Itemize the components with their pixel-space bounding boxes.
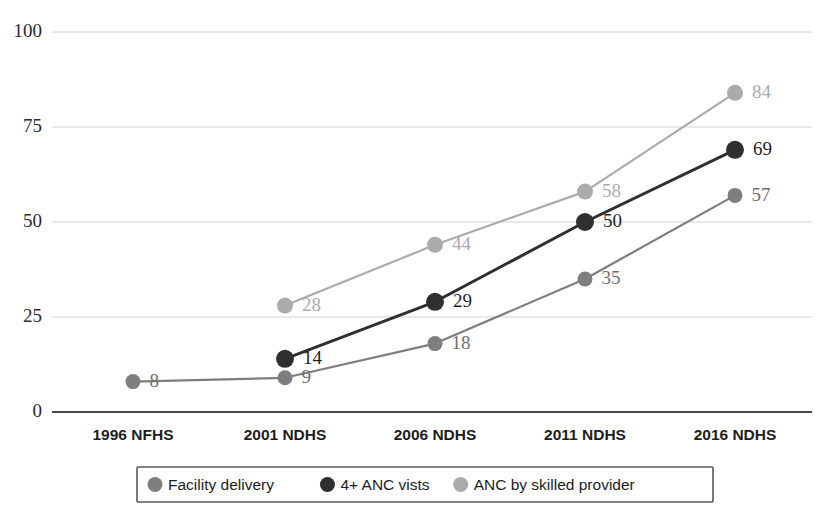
data-point-marker [426, 293, 444, 311]
y-axis-tick-label: 100 [14, 20, 43, 41]
data-point-label: 18 [452, 332, 471, 353]
y-axis-tick-group: 0255075100 [14, 20, 43, 421]
series-line [285, 93, 735, 306]
x-axis-tick-group: 1996 NFHS2001 NDHS2006 NDHS2011 NDHS2016… [93, 426, 777, 443]
data-point-marker [427, 237, 443, 253]
data-point-label: 50 [603, 210, 622, 231]
line-chart: 0255075100 1996 NFHS2001 NDHS2006 NDHS20… [0, 0, 825, 518]
data-point-label: 8 [150, 370, 160, 391]
series-line [133, 195, 735, 381]
data-point-label: 29 [453, 290, 472, 311]
data-point-label: 57 [752, 184, 771, 205]
data-point-label: 58 [602, 180, 621, 201]
legend-circle-marker [320, 477, 335, 492]
data-point-label: 44 [452, 233, 472, 254]
data-point-marker [727, 85, 743, 101]
y-axis-tick-label: 25 [23, 305, 42, 326]
legend-item-label: Facility delivery [168, 476, 274, 493]
gridline-group [52, 32, 812, 317]
data-point-marker [728, 188, 743, 203]
data-point-label: 35 [602, 267, 621, 288]
chart-legend: Facility delivery4+ ANC vistsANC by skil… [137, 467, 713, 502]
x-axis-tick-label: 2001 NDHS [244, 426, 327, 443]
data-point-label: 28 [302, 294, 321, 315]
legend-item-label: ANC by skilled provider [474, 476, 635, 493]
data-point-marker [726, 141, 744, 159]
data-point-label: 84 [752, 81, 772, 102]
legend-circle-marker [453, 477, 468, 492]
data-point-marker [126, 374, 141, 389]
data-point-marker [576, 213, 594, 231]
y-axis-tick-label: 75 [23, 115, 42, 136]
legend-item-label: 4+ ANC vists [340, 476, 429, 493]
data-point-marker [277, 298, 293, 314]
series-line [285, 150, 735, 359]
x-axis-tick-label: 1996 NFHS [93, 426, 174, 443]
x-axis-tick-label: 2011 NDHS [544, 426, 626, 443]
x-axis-tick-label: 2016 NDHS [694, 426, 777, 443]
legend-circle-marker [148, 477, 163, 492]
data-point-marker [577, 184, 593, 200]
data-point-label: 9 [302, 366, 312, 387]
data-point-label: 69 [753, 138, 772, 159]
data-point-marker [578, 272, 593, 287]
x-axis-tick-label: 2006 NDHS [394, 426, 477, 443]
data-point-label: 14 [303, 347, 323, 368]
series-marker-group [126, 85, 745, 389]
data-label-group: 891835571429506928445884 [150, 81, 773, 391]
data-point-marker [276, 350, 294, 368]
data-point-marker [428, 336, 443, 351]
chart-canvas: 0255075100 1996 NFHS2001 NDHS2006 NDHS20… [0, 0, 825, 518]
y-axis-tick-label: 50 [23, 210, 42, 231]
data-point-marker [278, 370, 293, 385]
y-axis-tick-label: 0 [33, 400, 43, 421]
